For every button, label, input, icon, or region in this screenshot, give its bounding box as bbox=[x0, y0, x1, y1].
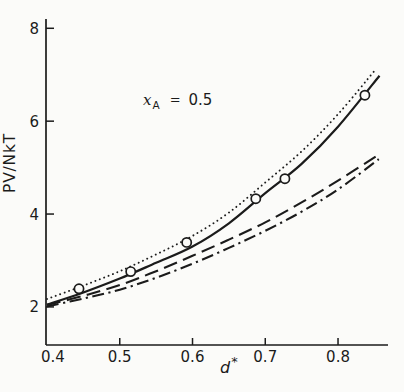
x-tick-label: 0.8 bbox=[326, 348, 350, 366]
annotation: xA=0.5 bbox=[143, 91, 212, 111]
x-axis-label: d* bbox=[220, 354, 238, 377]
y-tick-label: 6 bbox=[29, 113, 39, 131]
data-point-marker bbox=[74, 284, 83, 293]
y-tick-label: 8 bbox=[29, 20, 39, 38]
data-point-marker bbox=[360, 91, 369, 100]
x-tick-label: 0.7 bbox=[253, 348, 277, 366]
y-tick-label: 2 bbox=[29, 298, 39, 316]
y-tick-label: 4 bbox=[29, 206, 39, 224]
chart-svg: 24680.40.50.60.70.8 PV/NkT d* xA=0.5 bbox=[0, 0, 404, 392]
solid-curve bbox=[47, 76, 380, 305]
long-dash-curve bbox=[47, 155, 379, 306]
x-axis-label-base: d bbox=[220, 358, 231, 377]
x-tick-label: 0.6 bbox=[181, 348, 205, 366]
x-axis-label-superscript: * bbox=[231, 354, 238, 369]
data-point-marker bbox=[126, 267, 135, 276]
data-point-marker bbox=[251, 194, 260, 203]
data-point-marker bbox=[182, 238, 191, 247]
plot-curves bbox=[47, 70, 380, 306]
annotation-value: 0.5 bbox=[189, 91, 213, 109]
plot-markers bbox=[74, 91, 369, 294]
data-point-marker bbox=[280, 174, 289, 183]
x-tick-label: 0.5 bbox=[108, 348, 132, 366]
tick-labels: 24680.40.50.60.70.8 bbox=[29, 20, 350, 366]
annotation-variable: x bbox=[143, 91, 152, 109]
x-tick-label: 0.4 bbox=[41, 348, 65, 366]
y-axis-label: PV/NkT bbox=[1, 133, 19, 193]
annotation-relation: = bbox=[170, 92, 181, 107]
figure: 24680.40.50.60.70.8 PV/NkT d* xA=0.5 bbox=[0, 0, 404, 392]
dash-dot-curve bbox=[47, 159, 379, 306]
annotation-subscript: A bbox=[152, 99, 160, 111]
